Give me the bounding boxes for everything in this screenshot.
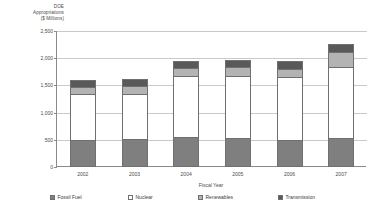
- bar-segment-transmission[interactable]: [277, 61, 303, 69]
- x-axis-tick-label: 2003: [122, 172, 148, 177]
- bar-segment-renewables[interactable]: [225, 67, 251, 75]
- y-axis-tick-label: 2,000: [40, 56, 53, 61]
- bar-segment-nuclear[interactable]: [70, 94, 96, 140]
- stacked-bar[interactable]: [225, 60, 251, 167]
- bar-segment-renewables[interactable]: [173, 68, 199, 76]
- y-axis-title-line-3: ($ Millions): [2, 16, 64, 22]
- legend-label: Transmission: [286, 194, 316, 200]
- bar-segment-fossil-fuel[interactable]: [277, 140, 303, 167]
- legend-label: Renewables: [206, 194, 234, 200]
- legend-label: Fossil Fuel: [58, 194, 82, 200]
- legend-item-fossil-fuel[interactable]: Fossil Fuel: [50, 194, 82, 200]
- y-axis-tick-label: 0: [50, 165, 53, 170]
- bar-segment-renewables[interactable]: [70, 87, 96, 94]
- bar-segment-nuclear[interactable]: [225, 76, 251, 138]
- stacked-bar[interactable]: [328, 44, 354, 167]
- legend-swatch-icon: [128, 195, 133, 200]
- y-axis-tick-label: 1,500: [40, 83, 53, 88]
- x-axis-title: Fiscal Year: [56, 182, 366, 188]
- bar-segment-fossil-fuel[interactable]: [328, 138, 354, 167]
- bar-segment-nuclear[interactable]: [277, 77, 303, 140]
- bar-segment-nuclear[interactable]: [173, 76, 199, 137]
- bar-segment-transmission[interactable]: [225, 60, 251, 67]
- stacked-bar[interactable]: [173, 61, 199, 167]
- bar-segment-renewables[interactable]: [277, 69, 303, 77]
- x-axis-tick-label: 2007: [328, 172, 354, 177]
- bars-layer: 200220032004200520062007: [57, 31, 367, 167]
- plot-area: 05001,0001,5002,0002,500 200220032004200…: [56, 31, 366, 167]
- x-axis-tick-label: 2006: [277, 172, 303, 177]
- legend-label: Nuclear: [136, 194, 153, 200]
- y-axis-tick-label: 500: [45, 137, 53, 142]
- x-axis-tick-label: 2002: [70, 172, 96, 177]
- stacked-bar[interactable]: [122, 79, 148, 167]
- bar-segment-fossil-fuel[interactable]: [225, 138, 251, 167]
- bar-segment-renewables[interactable]: [122, 86, 148, 94]
- legend-swatch-icon: [198, 195, 203, 200]
- bar-segment-renewables[interactable]: [328, 52, 354, 68]
- stacked-bar[interactable]: [277, 61, 303, 167]
- legend-swatch-icon: [50, 195, 55, 200]
- bar-segment-fossil-fuel[interactable]: [122, 139, 148, 167]
- x-axis-tick-label: 2005: [225, 172, 251, 177]
- chart-legend: Fossil FuelNuclearRenewablesTransmission: [50, 192, 340, 202]
- bar-segment-transmission[interactable]: [328, 44, 354, 52]
- y-axis-tick-label: 2,500: [40, 29, 53, 34]
- legend-item-renewables[interactable]: Renewables: [198, 194, 233, 200]
- bar-segment-fossil-fuel[interactable]: [173, 137, 199, 167]
- stacked-bar-chart: DOE Appropriations ($ Millions) 05001,00…: [0, 0, 379, 207]
- y-axis-tick: [54, 167, 57, 168]
- bar-segment-nuclear[interactable]: [328, 67, 354, 137]
- y-axis-title: DOE Appropriations ($ Millions): [2, 4, 64, 23]
- y-axis-tick-label: 1,000: [40, 110, 53, 115]
- legend-item-transmission[interactable]: Transmission: [278, 194, 315, 200]
- bar-segment-transmission[interactable]: [122, 79, 148, 86]
- bar-segment-fossil-fuel[interactable]: [70, 140, 96, 167]
- x-axis-tick-label: 2004: [173, 172, 199, 177]
- legend-item-nuclear[interactable]: Nuclear: [128, 194, 153, 200]
- stacked-bar[interactable]: [70, 80, 96, 167]
- legend-swatch-icon: [278, 195, 283, 200]
- bar-segment-nuclear[interactable]: [122, 94, 148, 139]
